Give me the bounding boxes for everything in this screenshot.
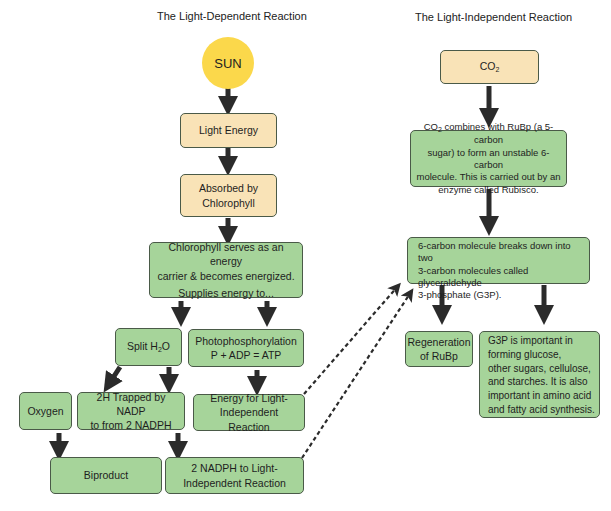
sun-label: SUN bbox=[214, 56, 241, 71]
energy-line2: Independent Reaction bbox=[198, 405, 300, 433]
combine-line3: molecule. This is carried out by an bbox=[417, 171, 561, 183]
g3p-line3: other sugars, cellulose, bbox=[488, 362, 591, 376]
chlorophyll-energized-box: Chlorophyll serves as an energy carrier … bbox=[149, 242, 303, 298]
combine-line1: CO2 combines with RuBp (a 5-carbon bbox=[415, 121, 562, 146]
regen-line2: of RuBp bbox=[420, 349, 458, 363]
dashed-arrows bbox=[302, 286, 411, 458]
nadph-to-light-independent-box: 2 NADPH to Light- Independent Reaction bbox=[165, 457, 304, 494]
combine-line4: enzyme called Rubisco. bbox=[438, 184, 538, 196]
split-water-label: Split H2O bbox=[127, 339, 170, 354]
absorbed-line1: Absorbed by bbox=[199, 181, 258, 195]
chlorophyll-line1: Chlorophyll serves as an energy bbox=[154, 240, 298, 268]
title-light-dependent: The Light-Dependent Reaction bbox=[157, 10, 307, 22]
absorbed-line2: Chlorophyll bbox=[202, 196, 255, 210]
chlorophyll-line2: carrier & becomes energized. bbox=[157, 269, 294, 283]
trapped-line2: to from 2 NADPH bbox=[90, 418, 171, 432]
sun-circle: SUN bbox=[202, 37, 254, 89]
light-energy-box: Light Energy bbox=[180, 113, 277, 148]
breakdown-line1: 6-carbon molecule breaks down into two bbox=[418, 240, 585, 265]
regen-line1: Regeneration bbox=[407, 335, 470, 349]
g3p-line4: and starches. It is also bbox=[488, 375, 588, 389]
combine-line2: sugar) to form an unstable 6-carbon bbox=[415, 147, 562, 172]
trapped-line1: 2H Trapped by NADP bbox=[82, 390, 180, 418]
g3p-breakdown-box: 6-carbon molecule breaks down into two 3… bbox=[407, 237, 590, 284]
g3p-line6: and fatty acid synthesis. bbox=[488, 403, 595, 417]
breakdown-line2: 3-carbon molecules called glyceraldehyde bbox=[418, 265, 585, 290]
split-water-box: Split H2O bbox=[115, 328, 182, 366]
regeneration-rubp-box: Regeneration of RuBp bbox=[405, 331, 473, 367]
energy-for-light-independent-box: Energy for Light- Independent Reaction bbox=[193, 394, 305, 431]
biproduct-label: Biproduct bbox=[84, 468, 128, 482]
nadp-trapped-box: 2H Trapped by NADP to from 2 NADPH bbox=[77, 392, 185, 430]
co2-box: CO2 bbox=[440, 50, 539, 84]
chlorophyll-line3: Supplies energy to... bbox=[178, 286, 274, 300]
photophosphorylation-box: Photophosphorylation P + ADP = ATP bbox=[188, 329, 304, 367]
oxygen-label: Oxygen bbox=[27, 404, 63, 418]
g3p-line5: important in amino acid bbox=[488, 389, 591, 403]
title-light-independent: The Light-Independent Reaction bbox=[415, 11, 572, 23]
energy-line1: Energy for Light- bbox=[210, 391, 288, 405]
absorbed-by-chlorophyll-box: Absorbed by Chlorophyll bbox=[180, 174, 277, 217]
nadph-line2: Independent Reaction bbox=[183, 476, 286, 490]
g3p-importance-box: G3P is important in forming glucose, oth… bbox=[479, 331, 600, 418]
co2-label: CO2 bbox=[480, 59, 500, 74]
oxygen-box: Oxygen bbox=[19, 392, 72, 430]
nadph-line1: 2 NADPH to Light- bbox=[191, 461, 277, 475]
rubisco-combine-box: CO2 combines with RuBp (a 5-carbon sugar… bbox=[410, 130, 567, 187]
g3p-line2: forming glucose, bbox=[488, 348, 561, 362]
biproduct-box: Biproduct bbox=[50, 457, 162, 494]
photo-line1: Photophosphorylation bbox=[195, 334, 297, 348]
light-energy-label: Light Energy bbox=[199, 123, 258, 137]
g3p-line1: G3P is important in bbox=[488, 334, 573, 348]
photo-line2: P + ADP = ATP bbox=[211, 348, 282, 362]
breakdown-line3: 3-phosphate (G3P). bbox=[418, 289, 501, 301]
